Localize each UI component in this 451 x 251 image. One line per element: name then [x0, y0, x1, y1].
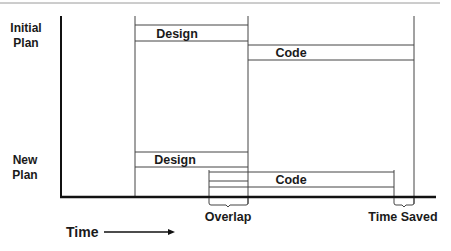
time-saved-brace [394, 198, 414, 207]
row-label-initial-1: Initial [10, 21, 41, 35]
initial-design-bar: Design [135, 25, 248, 41]
time-arrow-head-icon [168, 229, 175, 235]
new-design-bar: Design [135, 152, 248, 167]
row-label-initial-2: Plan [13, 36, 38, 50]
initial-code-label: Code [275, 46, 306, 60]
row-label-new-2: Plan [12, 168, 37, 182]
new-code-bar: Code [209, 170, 394, 197]
initial-design-label: Design [156, 27, 198, 41]
gantt-diagram: Initial Plan New Plan Design Code Design… [0, 0, 451, 251]
initial-code-bar: Code [248, 45, 414, 60]
new-code-label: Code [275, 173, 306, 187]
row-label-new-1: New [13, 153, 38, 167]
overlap-label: Overlap [205, 210, 252, 224]
new-design-label: Design [154, 153, 196, 167]
time-saved-label: Time Saved [368, 210, 437, 224]
overlap-brace [209, 198, 248, 207]
time-axis-label: Time [66, 224, 99, 240]
